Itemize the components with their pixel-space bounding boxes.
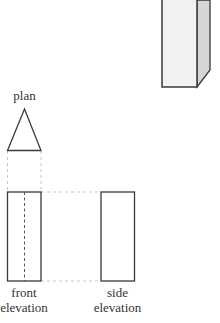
front-elevation-label-line2: elevation: [0, 300, 48, 315]
projection-lines: [8, 151, 102, 281]
box-side-face: [197, 0, 210, 87]
box-front-face: [162, 0, 197, 87]
plan-label: plan: [13, 88, 36, 103]
side-elevation-label-line2: elevation: [94, 300, 142, 315]
projection-diagram: plan front elevation side elevation: [0, 0, 220, 323]
isometric-box: [162, 0, 210, 87]
front-elevation: [8, 192, 42, 281]
side-elevation: [101, 192, 135, 281]
plan-triangle: [8, 109, 42, 151]
side-elevation-label-line1: side: [107, 285, 128, 300]
front-elevation-label-line1: front: [11, 285, 37, 300]
